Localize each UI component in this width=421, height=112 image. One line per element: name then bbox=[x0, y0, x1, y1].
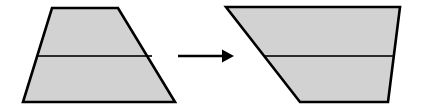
diagram-canvas bbox=[0, 0, 421, 112]
figure-container bbox=[0, 0, 421, 112]
